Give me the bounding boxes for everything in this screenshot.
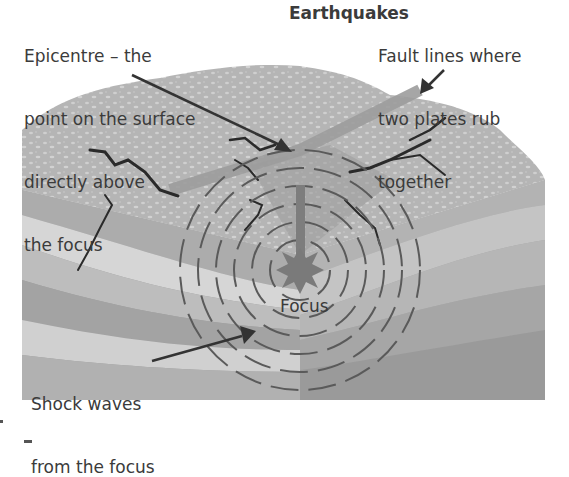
- label-fault-lines: Fault lines where two plates rub togethe…: [378, 4, 521, 214]
- label-shock-waves: Shock waves from the focus: [31, 352, 155, 477]
- label-focus: Focus: [280, 296, 329, 317]
- label-epicentre: Epicentre – the point on the surface dir…: [24, 4, 195, 277]
- scan-artifact-dot: [0, 420, 3, 423]
- scan-artifact-mark: [24, 440, 32, 443]
